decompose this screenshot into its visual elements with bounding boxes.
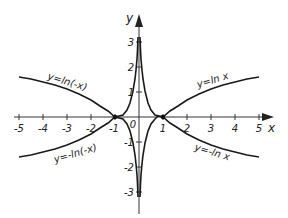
label-neg-ln-neg-x: y=-ln(-x) (51, 141, 98, 165)
y-tick-label: 3 (128, 37, 134, 48)
label-ln-x: y=ln x (194, 70, 229, 90)
x-tick-label: 4 (232, 123, 238, 134)
y-tick-label: -3 (124, 187, 134, 198)
x-tick-label: 5 (256, 123, 262, 134)
y-axis-arrow-icon (135, 14, 143, 27)
x-tick-label: -4 (38, 123, 48, 134)
y-axis-label: y (125, 11, 134, 25)
curve-neg-ln-x (140, 37, 259, 157)
x-tick-label: 3 (208, 123, 214, 134)
x-axis-label: x (267, 121, 276, 135)
y-tick-label: -2 (124, 162, 134, 173)
x-tick-labels: -5 -4 -3 -2 -1 1 2 3 4 5 0 (14, 119, 262, 134)
x-tick-label: -5 (14, 123, 24, 134)
intersection-point-pos-1 (161, 115, 166, 120)
y-tick-label: 2 (128, 62, 134, 73)
x-tick-label: -1 (109, 123, 119, 134)
label-neg-ln-x: y=-ln x (192, 141, 231, 162)
curve-ln-neg-x (19, 77, 138, 197)
origin-label: 0 (130, 119, 136, 130)
x-tick-label: -3 (62, 123, 72, 134)
log-curves-diagram: -5 -4 -3 -2 -1 1 2 3 4 5 0 3 2 1 -1 -2 -… (0, 0, 288, 218)
intersection-point-neg-1 (113, 115, 118, 120)
x-axis-arrow-icon (262, 113, 274, 121)
x-tick-label: 1 (160, 123, 166, 134)
curve-neg-ln-neg-x (19, 37, 138, 157)
curve-ln-x (140, 77, 259, 197)
